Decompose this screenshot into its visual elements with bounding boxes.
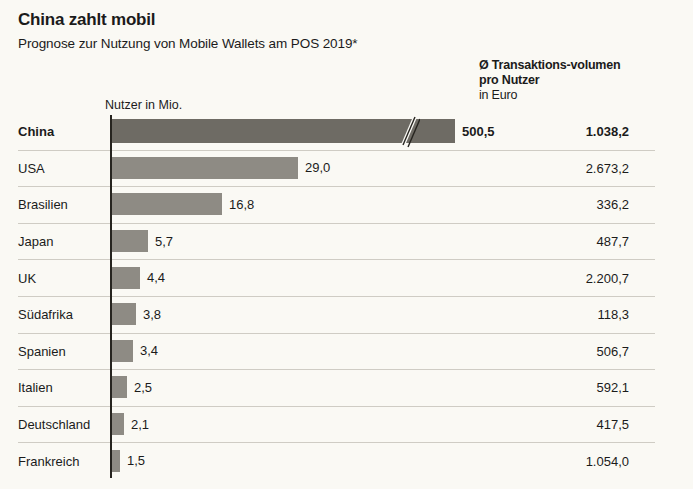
table-row: USA29,02.673,2 xyxy=(0,150,693,187)
column-header-transaction-volume: Ø Transaktions-volumen pro Nutzer in Eur… xyxy=(479,58,629,103)
table-row: Spanien3,4506,7 xyxy=(0,333,693,370)
bar xyxy=(110,230,148,252)
row-separator xyxy=(18,369,655,370)
bar xyxy=(110,413,124,435)
category-label: Südafrika xyxy=(18,307,73,322)
row-separator xyxy=(18,333,655,334)
bar xyxy=(110,119,455,143)
bar-value-label: 4,4 xyxy=(147,270,165,285)
bar-value-label: 5,7 xyxy=(155,234,173,249)
transaction-volume-value: 506,7 xyxy=(479,343,629,358)
bar xyxy=(110,376,127,398)
transaction-volume-value: 336,2 xyxy=(479,197,629,212)
transaction-volume-value: 1.038,2 xyxy=(479,124,629,139)
column-header-transaction-volume-unit: in Euro xyxy=(479,88,629,103)
bar-group: 2,5 xyxy=(110,376,152,398)
row-separator xyxy=(18,442,655,443)
bar-value-label: 1,5 xyxy=(127,453,145,468)
transaction-volume-value: 2.673,2 xyxy=(479,160,629,175)
table-row: UK4,42.200,7 xyxy=(0,259,693,296)
bar-group: 4,4 xyxy=(110,267,165,289)
bar xyxy=(110,340,133,362)
row-separator xyxy=(18,223,655,224)
bar-group: 2,1 xyxy=(110,413,149,435)
column-header-transaction-volume-text: Ø Transaktions-volumen pro Nutzer xyxy=(479,58,620,87)
category-label: Brasilien xyxy=(18,197,68,212)
category-label: Frankreich xyxy=(18,453,79,468)
category-label: Deutschland xyxy=(18,417,90,432)
transaction-volume-value: 2.200,7 xyxy=(479,270,629,285)
bar-value-label: 2,5 xyxy=(134,380,152,395)
table-row: China500,51.038,2 xyxy=(0,113,693,150)
transaction-volume-value: 487,7 xyxy=(479,234,629,249)
page-title: China zahlt mobil xyxy=(18,10,155,30)
bar-group: 500,5 xyxy=(110,119,495,143)
category-label: Spanien xyxy=(18,343,66,358)
transaction-volume-value: 1.054,0 xyxy=(479,453,629,468)
transaction-volume-value: 417,5 xyxy=(479,417,629,432)
table-row: Südafrika3,8118,3 xyxy=(0,296,693,333)
transaction-volume-value: 118,3 xyxy=(479,307,629,322)
infographic-chart: China zahlt mobil Prognose zur Nutzung v… xyxy=(0,0,693,489)
bar-value-label: 29,0 xyxy=(305,160,330,175)
table-row: Deutschland2,1417,5 xyxy=(0,406,693,443)
table-row: Frankreich1,51.054,0 xyxy=(0,442,693,479)
category-label: UK xyxy=(18,270,36,285)
category-label: Italien xyxy=(18,380,53,395)
bar-group: 3,8 xyxy=(110,303,161,325)
row-separator xyxy=(18,406,655,407)
row-separator xyxy=(18,186,655,187)
bar-group: 29,0 xyxy=(110,157,330,179)
bar xyxy=(110,303,136,325)
row-separator xyxy=(18,296,655,297)
bar xyxy=(110,267,140,289)
table-row: Japan5,7487,7 xyxy=(0,223,693,260)
column-header-users: Nutzer in Mio. xyxy=(105,98,182,112)
transaction-volume-value: 592,1 xyxy=(479,380,629,395)
row-separator xyxy=(18,150,655,151)
table-row: Italien2,5592,1 xyxy=(0,369,693,406)
page-subtitle: Prognose zur Nutzung von Mobile Wallets … xyxy=(18,36,357,51)
bar xyxy=(110,193,222,215)
bar-value-label: 2,1 xyxy=(131,417,149,432)
bar-group: 5,7 xyxy=(110,230,173,252)
bar-group: 3,4 xyxy=(110,340,158,362)
bar-group: 1,5 xyxy=(110,450,145,472)
row-separator xyxy=(18,259,655,260)
bar-value-label: 3,8 xyxy=(143,307,161,322)
category-label: China xyxy=(18,124,54,139)
value-axis-line xyxy=(110,115,112,478)
category-label: USA xyxy=(18,160,45,175)
bar-value-label: 3,4 xyxy=(140,343,158,358)
bar-value-label: 16,8 xyxy=(229,197,254,212)
table-row: Brasilien16,8336,2 xyxy=(0,186,693,223)
category-label: Japan xyxy=(18,234,53,249)
bar xyxy=(110,157,298,179)
bar-group: 16,8 xyxy=(110,193,254,215)
chart-rows: China500,51.038,2USA29,02.673,2Brasilien… xyxy=(0,113,693,479)
